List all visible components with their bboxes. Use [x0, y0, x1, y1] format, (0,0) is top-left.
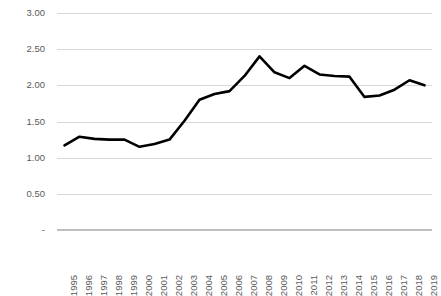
y-axis-tick-label: 2.50	[27, 44, 46, 54]
x-axis-tick-labels: 1995199619971998199920002001200220032004…	[57, 233, 432, 279]
x-axis-tick-label: 2002	[174, 275, 184, 296]
x-axis-tick-label: 2005	[219, 275, 229, 296]
x-axis-tick-label: 1998	[114, 275, 124, 296]
y-axis-tick-label: 1.00	[27, 153, 46, 163]
x-axis-tick-label: 2011	[309, 275, 319, 295]
x-axis-tick-label: 1999	[129, 275, 139, 296]
y-axis-tick-label: 2.00	[27, 80, 46, 90]
x-axis-tick-label: 2008	[264, 275, 274, 296]
x-axis-tick-label: 2015	[369, 275, 379, 296]
x-axis-tick-label: 2003	[189, 275, 199, 296]
x-axis-tick-label: 2017	[399, 275, 409, 296]
x-axis-tick-label: 2007	[249, 275, 259, 296]
x-axis-tick-label: 2000	[144, 275, 154, 296]
x-axis-tick-label: 2009	[279, 275, 289, 296]
x-axis-tick-label: 2013	[339, 275, 349, 296]
y-axis-tick-label: 0.50	[27, 189, 46, 199]
gridline	[57, 230, 432, 231]
x-axis-tick-label: 2004	[204, 275, 214, 296]
y-axis-tick-label: 3.00	[27, 8, 46, 18]
y-axis-tick-labels: -0.501.001.502.002.503.00	[0, 0, 52, 279]
x-axis-tick-label: 1997	[99, 275, 109, 296]
x-axis-tick-label: 2018	[414, 275, 424, 296]
plot-area	[57, 13, 432, 230]
x-axis-tick-label: 2019	[429, 275, 439, 296]
x-axis-tick-label: 2012	[324, 275, 334, 296]
y-axis-tick-label: -	[42, 225, 45, 235]
x-axis-tick-label: 2014	[354, 275, 364, 296]
x-axis-tick-label: 2016	[384, 275, 394, 296]
x-axis-tick-label: 1996	[84, 275, 94, 296]
x-axis-tick-label: 2010	[294, 275, 304, 296]
series-line	[57, 13, 432, 230]
x-axis-tick-label: 2006	[234, 275, 244, 296]
y-axis-tick-label: 1.50	[27, 117, 46, 127]
x-axis-tick-label: 2001	[159, 275, 169, 296]
x-axis-tick-label: 1995	[69, 275, 79, 296]
